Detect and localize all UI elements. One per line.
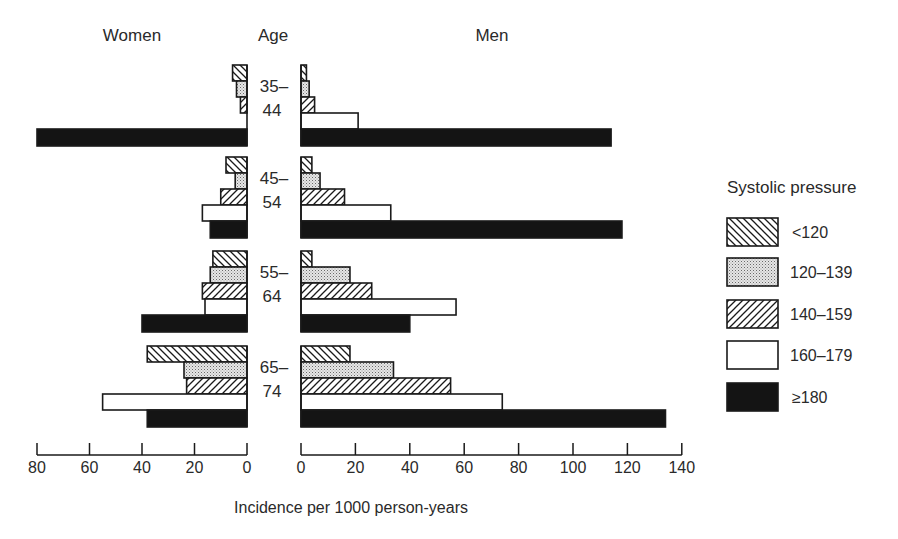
age-label-bottom: 44 <box>263 101 282 120</box>
women-bar <box>210 267 247 283</box>
men-tick-label: 20 <box>347 459 365 476</box>
women-tick-label: 20 <box>186 459 204 476</box>
age-label-bottom: 64 <box>263 287 282 306</box>
men-bar <box>301 65 306 81</box>
men-bar <box>301 299 456 315</box>
age-label-bottom: 54 <box>263 193 282 212</box>
age-label-top: 65– <box>260 358 289 377</box>
women-bar <box>147 410 247 427</box>
legend-item-120_139: 120–139 <box>727 258 852 286</box>
bar-groups <box>37 65 665 427</box>
women-bar <box>187 378 247 394</box>
legend: Systolic pressure <120120–139140–159160–… <box>727 178 856 411</box>
legend-label: <120 <box>792 224 828 241</box>
men-bar <box>301 283 372 299</box>
men-bar <box>301 267 350 283</box>
men-header: Men <box>475 26 508 45</box>
women-bar <box>202 205 247 221</box>
legend-item-ge180: ≥180 <box>727 383 828 411</box>
legend-swatch <box>727 383 778 411</box>
men-tick-label: 100 <box>560 459 587 476</box>
age-group-55–64 <box>142 251 456 332</box>
age-label-top: 45– <box>260 169 289 188</box>
age-group-65–74 <box>103 346 666 427</box>
age-group-35–44 <box>37 65 611 146</box>
men-bar <box>301 410 665 427</box>
legend-swatch <box>727 218 778 246</box>
women-bar <box>213 251 247 267</box>
women-bar <box>233 65 247 81</box>
men-tick-label: 60 <box>455 459 473 476</box>
age-label-bottom: 74 <box>263 382 282 401</box>
men-bar <box>301 315 410 332</box>
men-bar <box>301 129 611 146</box>
legend-title: Systolic pressure <box>727 178 856 197</box>
women-tick-label: 40 <box>133 459 151 476</box>
men-tick-label: 0 <box>297 459 306 476</box>
women-tick-label: 0 <box>243 459 252 476</box>
age-header: Age <box>258 26 288 45</box>
men-bar <box>301 189 345 205</box>
legend-label: 160–179 <box>790 347 852 364</box>
women-tick-label: 60 <box>81 459 99 476</box>
women-bar <box>240 97 247 113</box>
legend-item-160_179: 160–179 <box>727 341 852 369</box>
men-bar <box>301 205 391 221</box>
men-x-axis: 020406080100120140 <box>297 443 696 476</box>
legend-swatch <box>727 258 778 286</box>
x-axis-title: Incidence per 1000 person-years <box>234 499 468 516</box>
legend-swatch <box>727 341 778 369</box>
women-bar <box>103 394 247 410</box>
age-labels: 35–4445–5455–6465–74 <box>260 77 289 401</box>
men-bar <box>301 113 358 129</box>
legend-label: ≥180 <box>792 389 828 406</box>
incidence-chart: Women Age Men 35–4445–5455–6465–74 80604… <box>0 0 898 539</box>
legend-label: 120–139 <box>790 264 852 281</box>
women-header: Women <box>103 26 161 45</box>
men-tick-label: 140 <box>668 459 695 476</box>
women-bar <box>37 129 247 146</box>
legend-label: 140–159 <box>790 306 852 323</box>
legend-swatch <box>727 300 778 328</box>
men-tick-label: 40 <box>401 459 419 476</box>
legend-item-lt120: <120 <box>727 218 828 246</box>
women-bar <box>210 221 247 238</box>
women-bar <box>221 189 247 205</box>
men-bar <box>301 221 622 238</box>
women-bar <box>202 283 247 299</box>
men-bar <box>301 81 309 97</box>
age-label-top: 55– <box>260 263 289 282</box>
women-bar <box>147 346 247 362</box>
men-bar <box>301 362 393 378</box>
men-bar <box>301 173 320 189</box>
men-bar <box>301 394 502 410</box>
men-bar <box>301 251 312 267</box>
women-bar <box>237 81 248 97</box>
men-bar <box>301 378 451 394</box>
women-bar <box>205 299 247 315</box>
women-bar <box>184 362 247 378</box>
men-bar <box>301 97 315 113</box>
women-x-axis: 806040200 <box>28 443 251 476</box>
men-bar <box>301 157 312 173</box>
men-tick-label: 120 <box>614 459 641 476</box>
men-tick-label: 80 <box>510 459 528 476</box>
men-bar <box>301 346 350 362</box>
age-label-top: 35– <box>260 77 289 96</box>
legend-item-140_159: 140–159 <box>727 300 852 328</box>
women-bar <box>226 157 247 173</box>
women-tick-label: 80 <box>28 459 46 476</box>
women-bar <box>142 315 247 332</box>
women-bar <box>235 173 247 189</box>
